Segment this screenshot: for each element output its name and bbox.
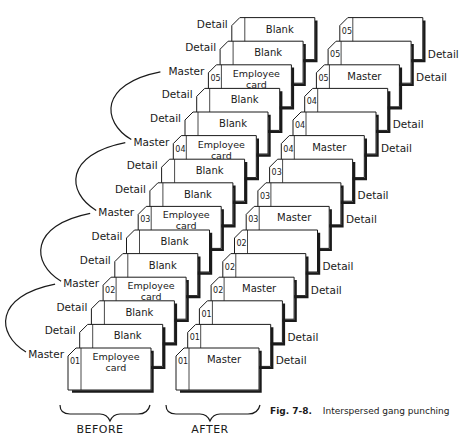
card-number: 03 <box>260 192 270 201</box>
master-arc <box>41 213 90 281</box>
card-number: 04 <box>295 121 305 130</box>
card-text: Master <box>242 283 277 294</box>
side-label-detail: Detail <box>428 48 459 60</box>
card-text: Employee <box>163 209 210 220</box>
card-text: Blank <box>219 118 247 129</box>
side-label-master: Master <box>133 136 170 148</box>
side-label-detail: Detail <box>197 18 228 30</box>
card-number: 05 <box>342 27 352 36</box>
side-label-detail: Detail <box>115 183 146 195</box>
card-number: 02 <box>213 286 223 295</box>
before-label: BEFORE <box>76 423 123 436</box>
side-label-detail: Detail <box>393 118 424 130</box>
card-text: Master <box>312 142 347 153</box>
side-label-detail: Detail <box>127 159 158 171</box>
side-label-detail: Detail <box>80 254 111 266</box>
card-number: 02 <box>237 239 247 248</box>
side-label-detail: Detail <box>381 142 412 154</box>
card-number: 04 <box>283 145 293 154</box>
side-label-detail: Detail <box>346 213 377 225</box>
side-label-detail: Detail <box>276 354 307 366</box>
side-label-detail: Detail <box>416 71 447 83</box>
card-number: 01 <box>201 310 211 319</box>
card-number: 04 <box>175 145 185 154</box>
side-label-detail: Detail <box>162 88 193 100</box>
card-number: 02 <box>225 263 235 272</box>
side-label-detail: Detail <box>323 260 354 272</box>
after-brace <box>166 405 260 421</box>
card-number: 03 <box>140 215 150 224</box>
card-number: 01 <box>70 357 80 366</box>
card-number: 05 <box>330 50 340 59</box>
card-number: 05 <box>210 74 220 83</box>
card-text: Employee <box>92 351 139 362</box>
side-label-detail: Detail <box>92 230 123 242</box>
card-text: Blank <box>125 307 153 318</box>
after-card: 01Master <box>176 348 261 392</box>
card-text: Blank <box>231 94 259 105</box>
side-label-master: Master <box>63 277 100 289</box>
side-label-detail: Detail <box>311 284 342 296</box>
card-number: 02 <box>105 286 115 295</box>
gang-punching-diagram: BlankDetailBlankDetail05EmployeecardMast… <box>0 0 464 438</box>
card-text: Employee <box>198 139 245 150</box>
card-number: 01 <box>178 357 188 366</box>
side-label-detail: Detail <box>150 112 181 124</box>
card-text: Master <box>277 212 312 223</box>
card-text: Blank <box>114 330 142 341</box>
card-text: Employee <box>128 280 175 291</box>
card-number: 05 <box>318 74 328 83</box>
card-text: Blank <box>266 24 294 35</box>
card-number: 04 <box>307 97 317 106</box>
master-arc <box>76 143 125 211</box>
side-label-detail: Detail <box>358 189 389 201</box>
card-number: 03 <box>248 215 258 224</box>
before-brace <box>60 405 150 421</box>
side-label-detail: Detail <box>56 301 87 313</box>
card-text: Blank <box>196 165 224 176</box>
side-label-detail: Detail <box>185 41 216 53</box>
card-number: 03 <box>272 168 282 177</box>
master-arc <box>111 72 160 140</box>
after-label: AFTER <box>191 423 228 436</box>
card-text: Master <box>207 354 242 365</box>
before-card: 01EmployeecardMaster <box>28 348 152 392</box>
side-label-master: Master <box>28 348 65 360</box>
card-number: 01 <box>190 333 200 342</box>
side-label-master: Master <box>169 65 206 77</box>
figure-caption: Fig. 7-8. Interspersed gang punching <box>270 406 450 416</box>
card-text: Master <box>347 71 382 82</box>
caption-number: Fig. 7-8. <box>270 406 312 416</box>
side-label-detail: Detail <box>45 324 76 336</box>
master-arc <box>6 284 55 352</box>
card-text: Blank <box>161 236 189 247</box>
card-text: card <box>106 362 127 373</box>
card-text: Blank <box>149 260 177 271</box>
card-text: Blank <box>184 189 212 200</box>
side-label-detail: Detail <box>287 331 318 343</box>
card-text: Employee <box>233 68 280 79</box>
side-label-master: Master <box>98 206 135 218</box>
card-text: Blank <box>254 47 282 58</box>
caption-title: Interspersed gang punching <box>323 406 450 416</box>
